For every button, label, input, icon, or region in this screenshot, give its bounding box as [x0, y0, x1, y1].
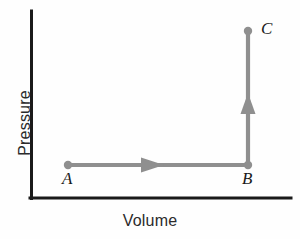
point-marker-c — [244, 27, 252, 35]
point-label-b: B — [242, 169, 252, 189]
process-path — [68, 31, 249, 166]
y-axis-label: Pressure — [16, 75, 34, 171]
point-marker-b — [244, 161, 252, 169]
state-point-markers — [64, 27, 252, 169]
x-axis-label: Volume — [102, 212, 198, 230]
arrowhead-right-icon — [141, 158, 164, 173]
point-label-a: A — [62, 169, 72, 189]
direction-arrows — [141, 93, 256, 173]
arrowhead-up-icon — [241, 93, 256, 114]
point-label-c: C — [261, 19, 272, 39]
plot-area — [0, 0, 300, 239]
point-marker-a — [64, 161, 72, 169]
pv-diagram-figure: Pressure Volume A B C — [0, 0, 300, 239]
